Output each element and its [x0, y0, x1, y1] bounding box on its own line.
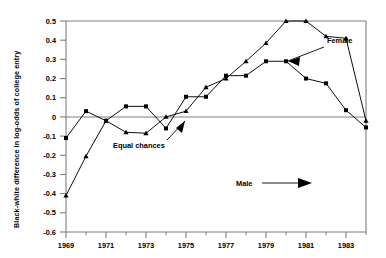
x-tick-label: 1981 — [298, 241, 314, 250]
annotation-equal-chances-arrow-head — [176, 121, 185, 133]
data-point-female-1970 — [84, 109, 88, 113]
data-point-female-1981 — [304, 77, 308, 81]
annotation-male: Male — [236, 178, 312, 188]
series-path-male — [66, 21, 366, 196]
x-tick-label: 1969 — [58, 241, 74, 250]
series-path-female — [66, 61, 366, 138]
y-tick-label: -0.1 — [43, 132, 56, 141]
data-point-male-1970 — [83, 154, 88, 159]
annotation-female: Female — [288, 36, 352, 66]
data-point-female-1978 — [244, 74, 248, 78]
data-point-female-1984 — [364, 125, 368, 129]
annotation-male-arrow-head — [298, 178, 312, 188]
annotation-female-arrow-line — [288, 47, 324, 61]
data-point-female-1982 — [324, 81, 328, 85]
series-line-female — [64, 59, 368, 140]
y-tick-label: 0.5 — [46, 17, 56, 26]
x-tick-label: 1983 — [338, 241, 354, 250]
annotation-equal-chances-label: Equal chances — [113, 141, 165, 150]
y-axis-tick-labels: 0.5 0.4 0.3 0.2 0.1 0 -0.1 -0.2 -0.3 -0.… — [43, 17, 57, 237]
x-tick-label: 1979 — [258, 241, 274, 250]
data-point-female-1974 — [164, 126, 168, 130]
y-axis-title: Black-white difference in log-odds of co… — [12, 51, 21, 228]
y-tick-label: 0.1 — [46, 93, 56, 102]
y-axis-ticks — [60, 21, 66, 232]
y-tick-label: 0 — [52, 113, 56, 122]
y-tick-label: -0.3 — [43, 170, 56, 179]
y-tick-label: -0.6 — [43, 228, 56, 237]
data-point-male-1984 — [363, 118, 368, 123]
data-point-female-1979 — [264, 59, 268, 63]
data-point-female-1980 — [284, 59, 288, 63]
x-tick-label: 1977 — [218, 241, 234, 250]
chart-figure: Black-white difference in log-odds of co… — [0, 0, 386, 258]
y-axis-title-wrap: Black-white difference in log-odds of co… — [0, 0, 16, 258]
annotation-female-label: Female — [327, 36, 352, 45]
data-point-female-1969 — [64, 136, 68, 140]
x-tick-label: 1975 — [178, 241, 194, 250]
y-tick-label: 0.2 — [46, 74, 56, 83]
series-line-male — [63, 18, 368, 197]
data-point-female-1983 — [344, 108, 348, 112]
chart-plot-svg: 0.5 0.4 0.3 0.2 0.1 0 -0.1 -0.2 -0.3 -0.… — [0, 0, 386, 258]
annotation-equal-chances: Equal chances — [113, 121, 185, 150]
y-tick-label: 0.3 — [46, 55, 56, 64]
annotation-male-label: Male — [236, 179, 252, 188]
x-tick-label: 1971 — [98, 241, 114, 250]
y-tick-label: -0.4 — [43, 189, 57, 198]
data-point-female-1975 — [184, 95, 188, 99]
data-point-female-1973 — [144, 104, 148, 108]
y-tick-label: 0.4 — [46, 36, 57, 45]
data-point-female-1972 — [124, 104, 128, 108]
plot-frame — [66, 21, 366, 232]
x-axis-tick-labels: 1969 1971 1973 1975 1977 1979 1981 1983 — [58, 241, 354, 250]
data-point-female-1976 — [204, 95, 208, 99]
x-axis-ticks — [66, 232, 366, 238]
y-tick-label: -0.5 — [43, 208, 56, 217]
y-tick-label: -0.2 — [43, 151, 56, 160]
x-tick-label: 1973 — [138, 241, 154, 250]
